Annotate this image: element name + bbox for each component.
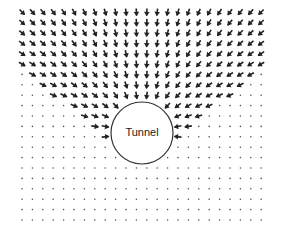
vector-field-diagram <box>0 0 281 236</box>
tunnel-label: Tunnel <box>112 126 172 138</box>
